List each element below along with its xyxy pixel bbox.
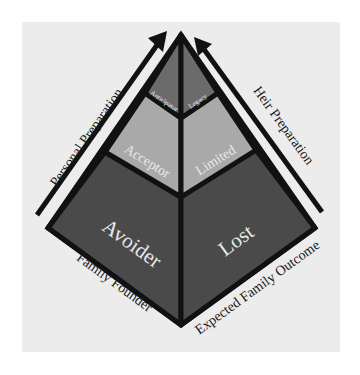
arrowhead-left-icon [148,31,167,52]
pyramid-diagram: Anticipator Legacy Acceptor Limited Avoi… [0,0,360,375]
